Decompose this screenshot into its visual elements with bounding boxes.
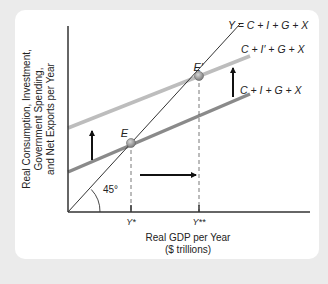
y-axis-label-line2: Government Spending, <box>33 68 44 171</box>
equilibrium-point-e <box>127 139 136 148</box>
point-e-label: E <box>121 127 129 139</box>
x-axis-label-line1: Real GDP per Year <box>146 232 232 243</box>
y-axis-label-line1: Real Consumption, Investment, <box>21 49 32 189</box>
y-star-label: Y* <box>126 217 136 227</box>
y-axis-label-line3: and Net Exports per Year <box>45 62 56 174</box>
point-e-prime-label: E′ <box>194 61 204 73</box>
y-double-star-label: Y** <box>192 217 206 227</box>
forty-five-line-label: Y = C + I + G + X <box>228 19 309 31</box>
y-axis-label: Real Consumption, Investment, Government… <box>21 49 56 189</box>
new-aggregate-line-label: C + I′ + G + X <box>241 43 306 55</box>
angle-label: 45° <box>103 184 118 195</box>
original-aggregate-line-label: C + I + G + X <box>240 84 303 96</box>
angle-arc-icon <box>91 190 100 213</box>
x-axis-label-line2: ($ trillions) <box>165 244 211 255</box>
original-aggregate-expenditure-line <box>68 94 250 172</box>
new-aggregate-expenditure-line <box>68 56 250 128</box>
keynesian-cross-diagram: E E′ Y = C + I + G + X C + I′ + G + X C … <box>0 0 328 284</box>
